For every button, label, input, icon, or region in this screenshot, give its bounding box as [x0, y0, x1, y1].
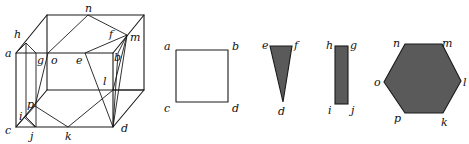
label-h: h: [14, 28, 21, 41]
cross-section-diagram: a h g o e n f m b l p i c j k d a b c d …: [0, 0, 469, 144]
hexagon-label-l: l: [463, 76, 467, 89]
cube-figure: a h g o e n f m b l p i c j k d: [5, 2, 144, 143]
triangle-section: e f d: [262, 39, 300, 118]
label-o: o: [51, 54, 58, 67]
triangle-label-f: f: [293, 39, 300, 52]
label-l: l: [103, 75, 107, 88]
rectangle-label-h: h: [326, 39, 333, 52]
label-e: e: [76, 54, 83, 67]
diagonal-line: [24, 117, 35, 127]
rectangle-label-i: i: [328, 104, 332, 117]
square-label-b: b: [232, 40, 239, 53]
rectangle-shape: [335, 46, 348, 104]
hexagon-shape: [384, 44, 461, 113]
label-n: n: [85, 2, 92, 15]
section-hgji-edge: [16, 43, 26, 53]
label-i: i: [19, 110, 23, 123]
square-shape: [176, 50, 228, 102]
label-c: c: [5, 124, 11, 137]
square-label-c: c: [164, 102, 170, 115]
hexagon-label-m: m: [442, 37, 452, 50]
square-label-a: a: [164, 40, 171, 53]
label-f: f: [108, 28, 115, 41]
square-label-d: d: [232, 102, 239, 115]
rectangle-label-j: j: [348, 104, 355, 117]
label-b: b: [114, 51, 121, 64]
hexagon-label-p: p: [394, 112, 401, 125]
hexagon-label-o: o: [374, 76, 381, 89]
triangle-label-d: d: [278, 105, 285, 118]
label-g: g: [37, 54, 44, 67]
label-j: j: [27, 130, 34, 143]
label-a: a: [5, 47, 12, 60]
triangle-shape: [270, 46, 292, 102]
hexagon-label-k: k: [441, 116, 448, 129]
section-hgji-edge: [26, 117, 36, 127]
rectangle-label-g: g: [350, 39, 357, 52]
square-section: a b c d: [164, 40, 239, 115]
rectangle-section: h g i j: [326, 39, 357, 117]
label-d: d: [121, 122, 128, 135]
hexagon-label-n: n: [393, 37, 400, 50]
label-k: k: [65, 130, 72, 143]
triangle-label-e: e: [262, 39, 269, 52]
hexagon-section: n m o l p k: [374, 37, 467, 129]
label-p: p: [27, 98, 34, 111]
label-m: m: [130, 31, 140, 44]
